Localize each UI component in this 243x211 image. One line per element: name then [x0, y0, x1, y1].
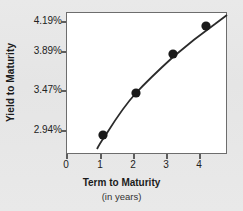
x-tick-label: 0 — [56, 159, 76, 170]
y-tick-label: 3.89% — [18, 45, 62, 56]
x-tick-label: 4 — [189, 159, 209, 170]
yield-curve-plot — [67, 13, 228, 155]
data-point-marker — [201, 21, 210, 30]
data-point-marker — [131, 88, 140, 97]
x-tick-label: 2 — [123, 159, 143, 170]
y-tick-label: 2.94% — [18, 124, 62, 135]
y-tick-label: 4.19% — [18, 15, 62, 26]
data-point-marker — [98, 130, 107, 139]
y-axis-tick-labels: 4.19% 3.89% 3.47% 2.94% — [16, 0, 62, 160]
x-tick-label: 3 — [156, 159, 176, 170]
chart-figure: Yield to Maturity 4.19% 3.89% 3.47% 2.94… — [0, 0, 243, 211]
x-tick-label: 1 — [90, 159, 110, 170]
yield-curve-line — [97, 15, 227, 149]
plot-area — [66, 12, 227, 154]
x-axis-title: Term to Maturity — [0, 177, 243, 188]
y-tick-label: 3.47% — [18, 84, 62, 95]
x-axis-subtitle: (in years) — [0, 191, 243, 202]
y-axis-title-text: Yield to Maturity — [6, 42, 17, 121]
data-point-marker — [168, 49, 177, 58]
